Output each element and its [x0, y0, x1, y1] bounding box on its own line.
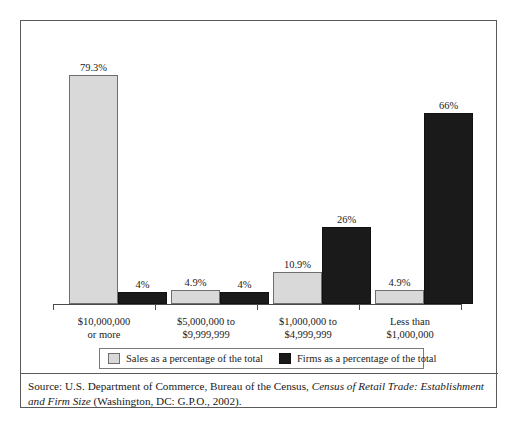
bar-group: 10.9% 26% — [257, 70, 359, 304]
bar-sales[interactable] — [375, 290, 424, 304]
x-axis-category-label: $10,000,000 or more — [53, 315, 155, 341]
bar-firms[interactable] — [424, 113, 473, 304]
source-text-part2: (Washington, DC: G.P.O., 2002). — [91, 395, 242, 407]
source-note: Source: U.S. Department of Commerce, Bur… — [28, 379, 492, 409]
bar-group: 4.9% 4% — [155, 70, 257, 304]
x-axis-category-label: Less than $1,000,000 — [359, 315, 461, 341]
bar-value-label: 66% — [414, 100, 483, 111]
category-line: Less than — [359, 315, 461, 328]
category-line: or more — [53, 328, 155, 341]
bar-value-label: 79.3% — [59, 62, 128, 73]
bar-sales[interactable] — [69, 75, 118, 304]
x-axis-tick — [461, 304, 462, 310]
legend-item-firms: Firms as a percentage of the total — [279, 353, 436, 364]
category-line: $1,000,000 — [359, 328, 461, 341]
legend-label-firms: Firms as a percentage of the total — [297, 353, 436, 364]
source-divider — [21, 373, 498, 374]
x-axis-tick — [359, 304, 360, 310]
x-axis-tick — [53, 304, 54, 310]
bar-group: 79.3% 4% — [53, 70, 155, 304]
category-line: $4,999,999 — [257, 328, 359, 341]
x-axis-tick — [155, 304, 156, 310]
legend-swatch-sales — [108, 353, 120, 364]
chart-plot-area: 79.3% 4% 4.9% 4% 10.9% — [21, 21, 498, 353]
x-axis-category-label: $5,000,000 to $9,999,999 — [155, 315, 257, 341]
bar-sales[interactable] — [273, 272, 322, 304]
legend-item-sales: Sales as a percentage of the total — [108, 353, 263, 364]
bar-sales[interactable] — [171, 290, 220, 304]
legend-swatch-firms — [279, 353, 291, 364]
x-axis-category-label: $1,000,000 to $4,999,999 — [257, 315, 359, 341]
bar-group: 4.9% 66% — [359, 70, 461, 304]
category-line: $10,000,000 — [53, 315, 155, 328]
category-line: $9,999,999 — [155, 328, 257, 341]
figure-frame: 79.3% 4% 4.9% 4% 10.9% — [20, 20, 497, 408]
category-line: $5,000,000 to — [155, 315, 257, 328]
source-text-part1: Source: U.S. Department of Commerce, Bur… — [28, 380, 312, 392]
category-line: $1,000,000 to — [257, 315, 359, 328]
chart-legend: Sales as a percentage of the total Firms… — [99, 348, 424, 369]
x-axis-tick — [257, 304, 258, 310]
legend-label-sales: Sales as a percentage of the total — [126, 353, 263, 364]
